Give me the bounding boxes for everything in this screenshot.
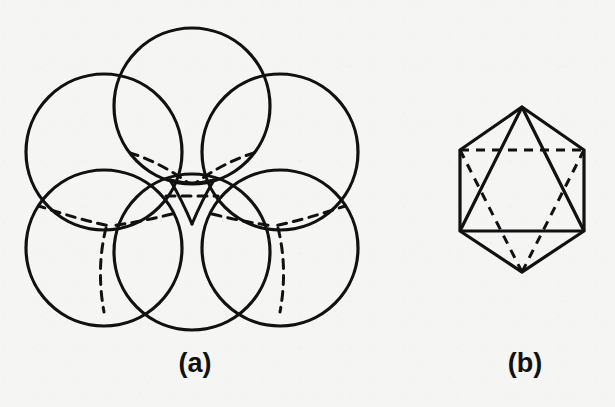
void-edge-top	[170, 180, 214, 183]
void-edge-right	[192, 180, 214, 224]
sphere-lower-right	[202, 170, 358, 326]
lower-right-sphere-hidden-arcs	[212, 205, 348, 312]
arc-ll-stem-left	[100, 228, 106, 312]
void-edge-left	[170, 180, 192, 224]
panel-b-octahedron	[460, 107, 584, 272]
arc-lr-stem-right	[278, 228, 284, 312]
figure-container: (a) (b)	[0, 0, 615, 407]
sphere-lower-left	[26, 170, 182, 326]
figure-svg	[0, 0, 615, 407]
sphere-upper-right	[202, 74, 358, 230]
octahedron-front-edges	[460, 107, 584, 231]
sphere-outlines-group	[26, 28, 358, 330]
panel-b-caption: (b)	[470, 348, 580, 379]
panel-a-sphere-cluster	[26, 28, 358, 330]
sphere-bottom	[114, 174, 270, 330]
lower-left-sphere-hidden-arcs	[36, 205, 172, 312]
sphere-top	[114, 28, 270, 184]
panel-a-caption: (a)	[140, 348, 250, 379]
sphere-upper-left	[26, 74, 182, 230]
octahedron-hidden-edges	[460, 150, 584, 272]
octahedron-silhouette-hexagon	[460, 107, 584, 272]
